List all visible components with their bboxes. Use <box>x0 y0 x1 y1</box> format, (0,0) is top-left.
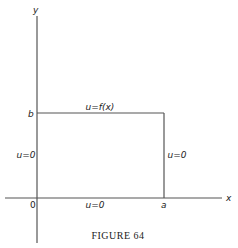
figure-caption: FIGURE 64 <box>91 230 144 241</box>
right-boundary-condition: u=0 <box>168 150 187 160</box>
origin-label: 0 <box>30 200 36 210</box>
top-boundary-condition: u=f(x) <box>86 102 115 112</box>
figure-64-diagram: y x 0 b a u=f(x) u=0 u=0 u=0 FIGURE 64 <box>0 0 238 248</box>
height-label-b: b <box>28 109 34 119</box>
y-axis-label: y <box>32 5 39 15</box>
x-axis-label: x <box>225 193 232 203</box>
left-boundary-condition: u=0 <box>17 150 36 160</box>
bottom-boundary-condition: u=0 <box>86 200 105 210</box>
width-label-a: a <box>161 200 167 210</box>
